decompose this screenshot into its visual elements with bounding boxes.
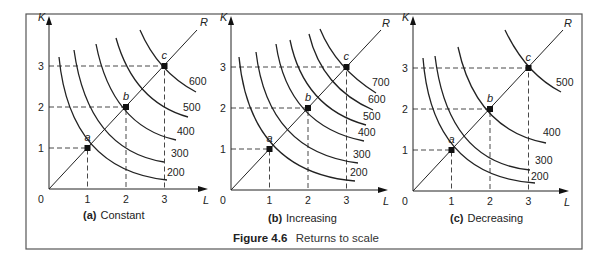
x-axis-label: L: [564, 196, 570, 208]
x-tick-label: 1: [267, 194, 273, 206]
figure-caption-label: Figure 4.6: [233, 232, 287, 244]
point-b: [123, 104, 129, 110]
x-arrow-icon: [198, 186, 208, 192]
y-tick-label: 1: [38, 142, 44, 154]
isoquant-label: 500: [183, 101, 201, 113]
x-tick-label: 3: [526, 195, 532, 207]
isoquant-400: [276, 44, 364, 141]
isoquant-label: 400: [358, 126, 376, 138]
point-label: c: [162, 49, 168, 61]
point-b: [305, 105, 311, 111]
y-tick-label: 3: [38, 60, 44, 72]
y-arrow-icon: [228, 16, 234, 25]
isoquant-label: 300: [353, 148, 371, 160]
isoquant-label: 600: [189, 75, 207, 87]
x-tick-label: 2: [123, 193, 129, 205]
point-label: a: [449, 133, 455, 145]
returns-to-scale-figure: R200300400500600abc0123123LK(a)ConstantR…: [0, 0, 612, 267]
point-a: [267, 146, 273, 152]
x-tick-label: 2: [305, 194, 311, 206]
point-c: [162, 63, 168, 69]
figure-caption-text: Returns to scale: [296, 232, 379, 244]
isoquant-label: 400: [543, 126, 561, 138]
isoquant-label: 300: [171, 147, 189, 159]
point-label: b: [305, 91, 311, 103]
point-c: [344, 64, 350, 70]
y-tick-label: 2: [220, 102, 226, 114]
point-a: [85, 145, 91, 151]
x-arrow-icon: [559, 188, 569, 194]
x-axis-label: L: [203, 194, 209, 206]
y-tick-label: 1: [402, 144, 408, 156]
y-axis-label: K: [402, 11, 410, 23]
isoquant-500: [290, 40, 366, 125]
point-c: [526, 65, 532, 71]
y-axis-label: K: [38, 11, 46, 23]
x-tick-label: 3: [162, 193, 168, 205]
isoquant-label: 500: [363, 110, 381, 122]
y-tick-label: 3: [402, 62, 408, 74]
x-tick-label: 1: [449, 195, 455, 207]
x-arrow-icon: [378, 187, 388, 193]
panel-subtitle: (b)Increasing: [268, 212, 337, 224]
ray-label: R: [200, 16, 208, 28]
x-tick-label: 2: [487, 195, 493, 207]
isoquant-label: 300: [535, 154, 553, 166]
x-tick-label: 0: [402, 195, 408, 207]
isoquant-label: 200: [531, 170, 549, 182]
isoquant-label: 200: [167, 166, 185, 178]
panel-increasing: R200300400500600700abc0123123LK(b)Increa…: [220, 11, 390, 224]
x-tick-label: 1: [85, 193, 91, 205]
y-tick-label: 1: [220, 143, 226, 155]
point-label: a: [85, 131, 91, 143]
panel-constant: R200300400500600abc0123123LK(a)Constant: [38, 11, 209, 221]
y-tick-label: 2: [402, 103, 408, 115]
isoquant-label: 700: [372, 76, 390, 88]
y-axis-label: K: [220, 11, 228, 23]
y-arrow-icon: [410, 16, 416, 25]
x-tick-label: 0: [38, 193, 44, 205]
panel-decreasing: R200300400500abc0123123LK(c)Decreasing: [402, 11, 574, 224]
point-label: a: [267, 132, 273, 144]
isoquant-label: 400: [177, 125, 195, 137]
isoquant-label: 500: [556, 76, 574, 88]
isoquant-label: 200: [350, 166, 368, 178]
isoquant-label: 600: [368, 93, 386, 105]
point-label: b: [487, 92, 493, 104]
ray-label: R: [564, 17, 572, 29]
point-a: [449, 147, 455, 153]
point-label: c: [344, 50, 350, 62]
point-b: [487, 106, 493, 112]
y-tick-label: 3: [220, 61, 226, 73]
ray-label: R: [382, 17, 390, 29]
panel-subtitle: (c)Decreasing: [450, 212, 523, 224]
x-axis-label: L: [383, 195, 389, 207]
point-label: c: [526, 51, 532, 63]
x-tick-label: 3: [344, 194, 350, 206]
x-tick-label: 0: [220, 194, 226, 206]
figure-caption: Figure 4.6 Returns to scale: [233, 228, 379, 245]
y-tick-label: 2: [38, 101, 44, 113]
y-arrow-icon: [46, 16, 52, 25]
point-label: b: [123, 90, 129, 102]
panel-subtitle: (a)Constant: [83, 209, 144, 221]
